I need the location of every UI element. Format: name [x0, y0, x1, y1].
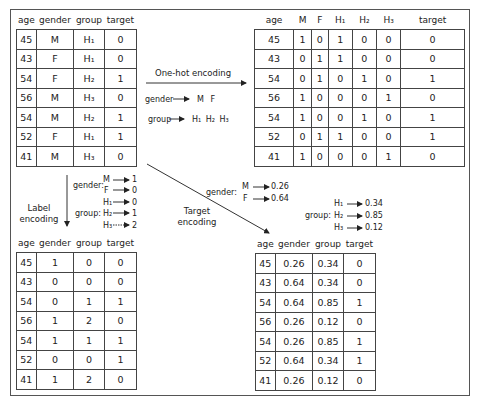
- one-hot-group-label: group: [148, 114, 171, 125]
- one-hot-gender-values: M F: [197, 94, 215, 105]
- arrows-overlay: [0, 0, 477, 408]
- label-group-label: group:: [75, 208, 101, 219]
- label-gender-label: gender:: [73, 180, 104, 191]
- target-group-val-h3: 0.12: [365, 222, 383, 233]
- label-gender-val-m: 1: [132, 174, 137, 185]
- label-group-key-h2: H₂: [103, 208, 112, 219]
- target-gender-val-m: 0.26: [271, 181, 289, 192]
- one-hot-group-values: H₁ H₂ H₃: [192, 114, 229, 125]
- target-group-key-h2: H₂: [334, 210, 343, 221]
- target-group-val-h2: 0.85: [365, 210, 383, 221]
- label-group-key-h3: H₃: [103, 220, 112, 231]
- label-gender-key-m: M: [103, 174, 110, 185]
- label-gender-key-f: F: [104, 185, 109, 196]
- target-group-val-h1: 0.34: [365, 198, 383, 209]
- label-group-val-h3: 2: [132, 220, 137, 231]
- target-gender-key-m: M: [242, 181, 249, 192]
- target-gender-val-f: 0.64: [271, 193, 289, 204]
- label-encoding-label: Label encoding: [14, 203, 64, 225]
- one-hot-gender-label: gender: [145, 94, 173, 105]
- target-encoding-label: Target encoding: [170, 206, 224, 228]
- one-hot-encoding-label: One-hot encoding: [155, 68, 231, 79]
- target-gender-key-f: F: [243, 193, 248, 204]
- label-gender-val-f: 0: [132, 185, 137, 196]
- label-group-key-h1: H₁: [103, 197, 112, 208]
- label-group-val-h1: 0: [132, 197, 137, 208]
- target-group-label: group:: [305, 210, 331, 221]
- target-group-key-h3: H₃: [334, 222, 343, 233]
- label-group-val-h2: 1: [132, 208, 137, 219]
- target-gender-label: gender:: [206, 187, 237, 198]
- target-group-key-h1: H₁: [334, 198, 343, 209]
